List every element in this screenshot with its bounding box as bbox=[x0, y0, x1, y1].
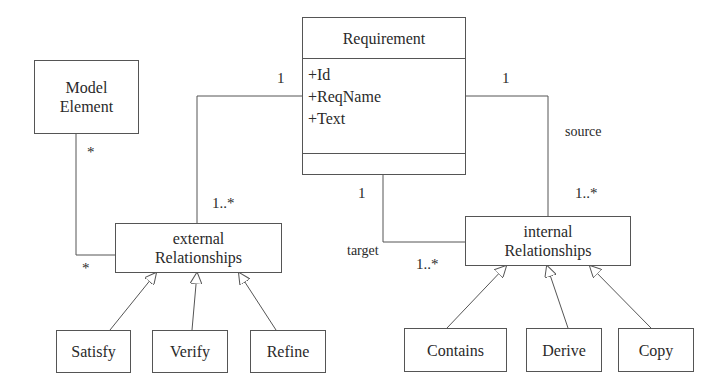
internal-relationships-line2: Relationships bbox=[504, 241, 591, 260]
generalization-verify bbox=[192, 273, 197, 330]
multiplicity-target-rel: 1..* bbox=[416, 256, 439, 273]
requirement-class[interactable]: Requirement +Id +ReqName +Text bbox=[302, 17, 466, 175]
refine-label: Refine bbox=[267, 342, 310, 361]
attribute-text: +Text bbox=[308, 108, 465, 130]
association-modelelement-external bbox=[76, 133, 115, 255]
model-element-line1: Model bbox=[66, 78, 108, 97]
verify-label: Verify bbox=[170, 342, 210, 361]
generalization-contains bbox=[447, 266, 506, 328]
copy-label: Copy bbox=[639, 341, 674, 360]
role-label-target: target bbox=[347, 243, 379, 259]
copy-class[interactable]: Copy bbox=[618, 328, 694, 372]
satisfy-class[interactable]: Satisfy bbox=[56, 330, 131, 373]
multiplicity-source-rel: 1..* bbox=[575, 185, 598, 202]
role-label-source: source bbox=[565, 124, 602, 140]
requirement-attributes: +Id +ReqName +Text bbox=[303, 58, 465, 154]
association-source bbox=[465, 96, 548, 216]
model-element-line2: Element bbox=[60, 97, 113, 116]
generalization-refine bbox=[239, 273, 276, 330]
attribute-reqname: +ReqName bbox=[308, 86, 465, 108]
requirement-operations bbox=[303, 154, 465, 174]
multiplicity-source-req: 1 bbox=[502, 70, 510, 87]
multiplicity-external-req: 1..* bbox=[212, 195, 235, 212]
derive-class[interactable]: Derive bbox=[526, 328, 602, 372]
association-target bbox=[383, 174, 465, 242]
contains-class[interactable]: Contains bbox=[404, 328, 507, 372]
multiplicity-req-external: 1 bbox=[277, 70, 285, 87]
satisfy-label: Satisfy bbox=[71, 342, 115, 361]
verify-class[interactable]: Verify bbox=[152, 330, 228, 373]
generalization-copy bbox=[590, 266, 651, 328]
multiplicity-target-req: 1 bbox=[358, 185, 366, 202]
multiplicity-model-element-rel: * bbox=[82, 260, 90, 277]
external-relationships-line1: external bbox=[173, 229, 225, 248]
derive-label: Derive bbox=[542, 341, 586, 360]
internal-relationships-class[interactable]: internal Relationships bbox=[465, 216, 631, 266]
requirement-class-name: Requirement bbox=[303, 18, 465, 59]
external-relationships-line2: Relationships bbox=[155, 248, 242, 267]
attribute-id: +Id bbox=[308, 64, 465, 86]
generalization-derive bbox=[547, 266, 568, 328]
contains-label: Contains bbox=[427, 341, 484, 360]
external-relationships-class[interactable]: external Relationships bbox=[115, 223, 282, 273]
generalization-satisfy bbox=[110, 273, 156, 330]
refine-class[interactable]: Refine bbox=[250, 330, 326, 373]
model-element-class[interactable]: Model Element bbox=[34, 60, 139, 134]
internal-relationships-line1: internal bbox=[524, 222, 573, 241]
multiplicity-model-element: * bbox=[87, 144, 95, 161]
